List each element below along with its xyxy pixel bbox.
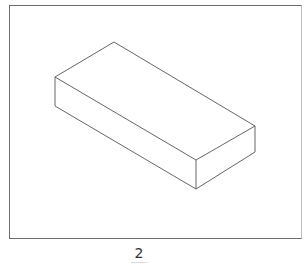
figure-number-label: 2 — [128, 244, 150, 262]
isometric-box-drawing — [0, 0, 304, 264]
box-top-face — [55, 42, 255, 160]
box-left-face — [55, 77, 196, 189]
box-right-face — [196, 126, 255, 189]
label-underline — [131, 262, 147, 263]
